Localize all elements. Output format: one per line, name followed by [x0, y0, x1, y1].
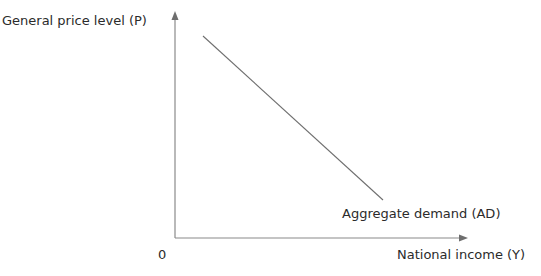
y-axis-arrowhead-icon — [172, 11, 179, 20]
diagram-canvas — [0, 0, 541, 276]
aggregate-demand-curve — [203, 36, 383, 200]
x-axis-arrowhead-icon — [459, 235, 468, 242]
x-axis-label: National income (Y) — [397, 248, 525, 261]
aggregate-demand-label: Aggregate demand (AD) — [342, 207, 500, 220]
aggregate-demand-diagram: General price level (P) 0 Aggregate dema… — [0, 0, 541, 276]
y-axis-label: General price level (P) — [2, 14, 147, 27]
origin-label: 0 — [158, 248, 166, 261]
